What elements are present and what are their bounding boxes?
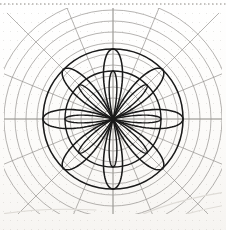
grid-spoke xyxy=(117,128,171,230)
polar-grid-axes xyxy=(0,0,226,230)
scan-smudge xyxy=(148,205,226,230)
grid-spoke xyxy=(120,126,219,225)
grid-spoke xyxy=(56,128,110,230)
scan-smudge xyxy=(112,192,226,229)
grid-spoke xyxy=(7,13,106,112)
polar-rose-figure xyxy=(0,0,226,230)
scan-smudge xyxy=(170,214,226,230)
scanned-page xyxy=(0,0,226,230)
grid-spoke xyxy=(120,13,219,112)
